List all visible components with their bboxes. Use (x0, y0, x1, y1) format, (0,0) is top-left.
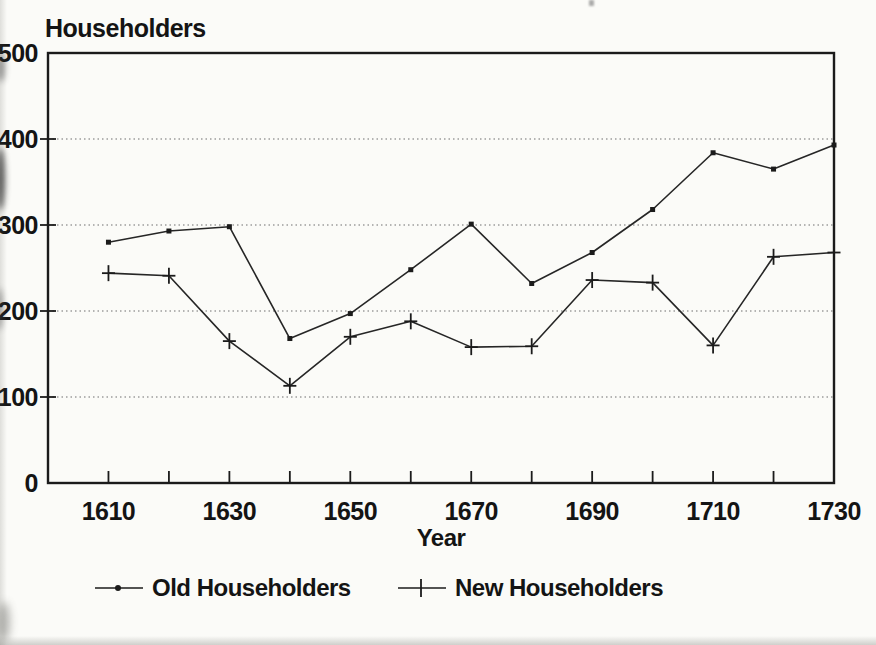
svg-text:200: 200 (0, 297, 38, 325)
old-series-marker-icon (95, 578, 143, 598)
svg-text:1730: 1730 (807, 497, 861, 525)
svg-text:500: 500 (0, 39, 38, 67)
svg-text:1630: 1630 (203, 497, 257, 525)
svg-text:300: 300 (0, 211, 38, 239)
x-axis-title: Year (417, 524, 466, 552)
legend-item-new: New Householders (398, 571, 663, 605)
svg-text:1650: 1650 (323, 497, 377, 525)
svg-text:1710: 1710 (686, 497, 740, 525)
new-series-marker-icon (398, 577, 446, 599)
svg-text:0: 0 (25, 469, 38, 497)
chart-container: Householders 010020030040050016101630165… (0, 0, 876, 645)
legend-label-old: Old Householders (152, 574, 351, 602)
svg-text:1610: 1610 (82, 497, 136, 525)
svg-text:400: 400 (0, 125, 38, 153)
svg-text:1690: 1690 (565, 497, 619, 525)
legend-label-new: New Householders (455, 574, 663, 602)
svg-text:100: 100 (0, 383, 38, 411)
svg-text:1670: 1670 (444, 497, 498, 525)
legend-item-old: Old Householders (95, 571, 351, 605)
